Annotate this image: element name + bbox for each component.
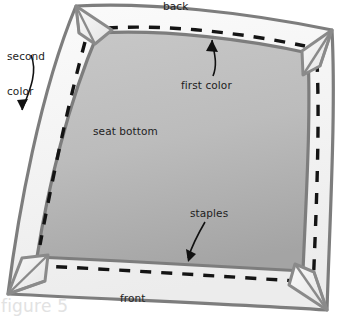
label-staples: staples [190,208,228,220]
seat-bottom-diagram [0,0,339,323]
label-back: back [163,1,188,13]
label-second-color: second color [7,28,45,120]
label-second-color-line2: color [7,86,45,98]
label-front: front [120,293,145,305]
label-seat-bottom: seat bottom [93,126,158,138]
label-second-color-line1: second [7,51,45,63]
label-first-color: first color [181,80,232,92]
figure-caption: figure 5 [1,296,68,316]
figure-container: second color back first color seat botto… [0,0,339,323]
